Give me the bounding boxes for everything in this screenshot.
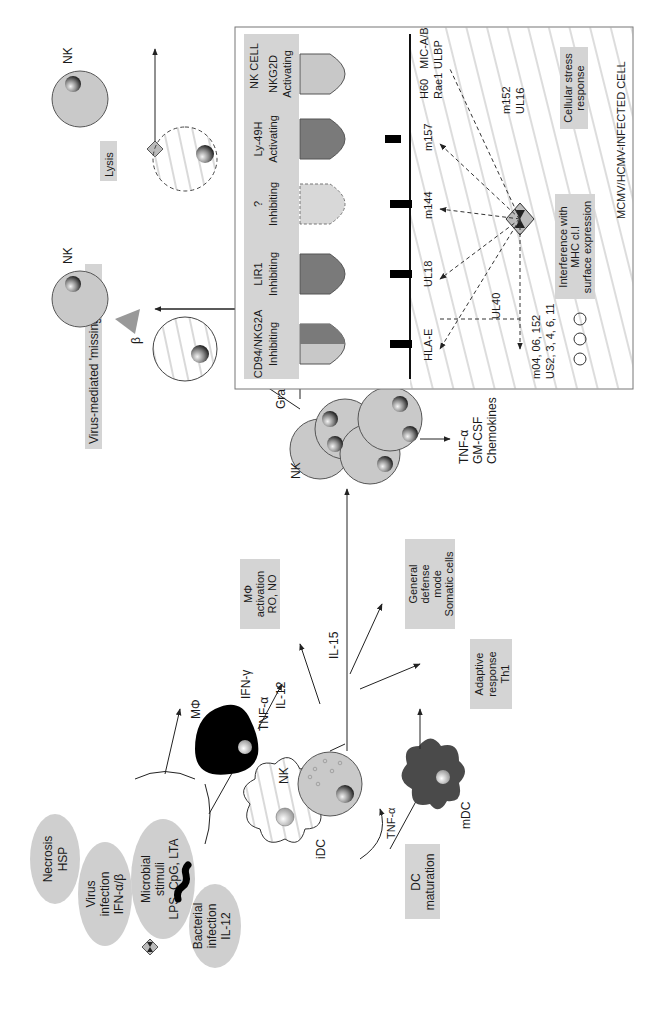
virus-infection-label: infection: [98, 872, 112, 917]
stimuli-label: stimuli: [153, 862, 167, 896]
lps-cpg-lta-label: LPS, CpG, LTA: [167, 839, 181, 920]
lysis-label: Lysis: [103, 152, 115, 177]
defense-label: defense: [419, 564, 431, 603]
infected-cell-label: MCMV/HCMV-INFECTED CELL: [615, 61, 627, 219]
th1-label: Th1: [499, 665, 511, 684]
mphi-activation-box: MΦ activation RO, NO: [240, 559, 280, 629]
receptor-type-2: Inhibiting: [267, 182, 279, 226]
necrosis-label: Necrosis: [41, 836, 55, 883]
microbial-label: Microbial: [139, 855, 153, 903]
bacterial-label: Bacterial: [191, 903, 205, 950]
nk-top-left: NK: [52, 247, 108, 327]
interference-box: Interference with MHC cl.I surface expre…: [555, 194, 595, 299]
nk-cell-diagram: Necrosis HSP Virus infection IFN-α/β Mic…: [0, 0, 661, 1009]
activation-label: activation: [254, 571, 266, 617]
il15-label: IL-15: [327, 631, 341, 659]
stimulus-bacterial: Bacterial infection IL-12: [189, 884, 241, 968]
nk-top-right: NK: [52, 47, 108, 127]
arrow-to-mphi-activation: [300, 644, 320, 704]
general-label: General: [407, 564, 419, 603]
m152-label: m152: [500, 86, 512, 114]
adaptive-response-box: Adaptive response Th1: [470, 639, 512, 709]
idc-label: iDC: [314, 839, 328, 859]
receptor-name-4: NKG2D: [267, 55, 279, 93]
target-cell-lysed: [153, 127, 217, 191]
ligand-h60: H60: [418, 79, 430, 99]
nk-top1-label: NK: [61, 47, 75, 64]
virus-icon: [142, 939, 158, 955]
ligand-ulbp: ULBP: [432, 40, 444, 69]
nk-main-label: NK: [277, 767, 291, 784]
mhc-gene-line-1: US2, 3, 4, 6, 11: [544, 303, 556, 379]
virus-label: Virus: [84, 880, 98, 907]
ro-no-label: RO, NO: [266, 574, 278, 614]
mdc-label: mDC: [459, 801, 473, 829]
adaptive-label: Adaptive: [473, 653, 485, 696]
ligand-1: UL18: [422, 261, 434, 287]
nk-top2-label: NK: [61, 247, 75, 264]
mphi-label: MΦ: [242, 585, 254, 603]
macrophage-label: MΦ: [189, 699, 203, 719]
response-label: response: [486, 651, 498, 696]
target-cell-left: [153, 317, 217, 381]
hsp-label: HSP: [56, 847, 70, 872]
interference-line-0: Interference with: [557, 206, 569, 287]
macrophage-cell: MΦ: [189, 699, 258, 774]
nk-cluster: NK: [289, 387, 422, 484]
tnf-alpha-label-1: TNF-α: [257, 697, 271, 731]
receptor-name-1: LIR1: [252, 262, 264, 285]
somatic-cells-label: Somatic cells: [443, 551, 455, 616]
ifn-gamma-label: IFN-γ: [239, 670, 253, 699]
receptor-type-1: Inhibiting: [267, 252, 279, 296]
gmcsf-secreted: GM-CSF: [471, 417, 485, 464]
ul16-label: UL16: [514, 88, 526, 114]
mdc-cell: mDC: [402, 739, 473, 830]
receptor-icon-left: [115, 309, 140, 334]
bacterial-infection-label: infection: [205, 904, 219, 949]
chemokines-secreted: Chemokines: [485, 397, 499, 464]
dc-label: DC: [409, 873, 423, 891]
receptor-name-3: Ly-49H: [252, 121, 264, 156]
tnf-secreted: TNF-α: [457, 430, 471, 464]
secreted-cytokines: TNF-α GM-CSF Chemokines: [457, 397, 499, 464]
line-nk-ifn: [330, 744, 345, 751]
nk-cell-panel-label: NK CELL: [248, 43, 260, 89]
receptor-type-0: Inhibiting: [267, 322, 279, 366]
receptor-name-0: CD94/NKG2A: [252, 309, 264, 378]
maturation-label: maturation: [423, 854, 437, 911]
il12-stim-label: IL-12: [219, 912, 233, 940]
lysis-box: Lysis: [100, 141, 117, 181]
receptor-type-4: Activating: [281, 50, 293, 98]
tnf-loop-arrow: [360, 809, 383, 859]
arrow-to-general-defense: [350, 604, 382, 674]
mhc-gene-line-0: m04, 06, 152: [530, 315, 542, 379]
ligand-mica: MIC-A/B: [418, 27, 430, 69]
tnf-alpha-label-2: TNF-α: [385, 807, 397, 839]
ligand-2: m144: [422, 191, 434, 219]
interference-line-1: MHC cl.I: [569, 226, 581, 268]
mode-label: mode: [431, 570, 443, 598]
stimulus-necrosis: Necrosis HSP: [30, 814, 80, 904]
stress-line-0: Cellular stress: [562, 53, 574, 123]
arrow-to-nk: [165, 709, 180, 774]
ligand-3: m157: [422, 123, 434, 151]
nk-cluster-label: NK: [289, 462, 303, 479]
receptor-name-2: ?: [252, 201, 264, 207]
ifn-ab-label: IFN-α/β: [112, 874, 126, 915]
receptor-type-3: Activating: [267, 115, 279, 163]
interference-line-2: surface expression: [581, 201, 593, 293]
ul40-label: UL40: [490, 293, 502, 319]
stress-line-1: response: [574, 65, 586, 110]
dc-maturation-box: DC maturation: [405, 844, 440, 919]
stimulus-virus: Virus infection IFN-α/β: [78, 842, 132, 946]
ligand-rae1: Rae1: [432, 73, 444, 99]
diagram-stage: Necrosis HSP Virus infection IFN-α/β Mic…: [0, 0, 661, 1009]
stress-box: Cellular stress response: [560, 47, 588, 129]
ligand-0: HLA-E: [422, 329, 434, 361]
arrow-to-adaptive: [360, 664, 420, 689]
general-defense-box: General defense mode Somatic cells: [405, 539, 455, 629]
beta-icon-left: β: [129, 337, 143, 344]
